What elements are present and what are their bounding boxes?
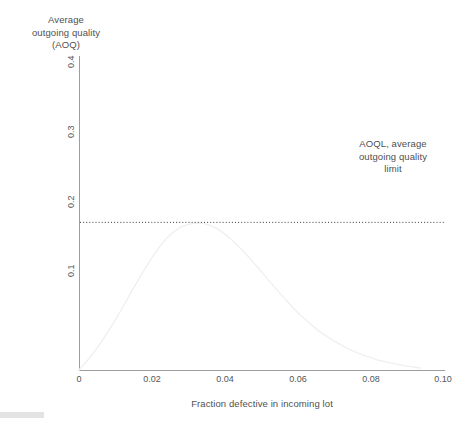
aoq-curve (79, 223, 420, 370)
plot-area (0, 0, 473, 425)
aoq-chart-figure: Average outgoing quality (AOQ) 0.1 0.2 0… (0, 0, 473, 425)
bottom-edge-artifact (0, 412, 44, 418)
